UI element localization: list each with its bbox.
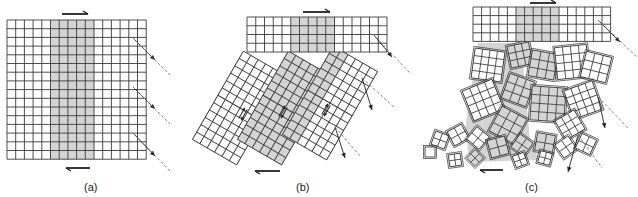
rock-fragment: [424, 146, 437, 159]
rock-fragment: [447, 152, 464, 169]
panel-c-fragmented-blocks: [0, 0, 638, 197]
figure-canvas: (a) (b) (c): [0, 0, 638, 197]
panel-label-b: (b): [296, 181, 309, 193]
panel-label-a: (a): [84, 181, 97, 193]
rock-fragment: [469, 46, 506, 83]
displacement-vector-icon: [598, 97, 628, 128]
shear-arrow-left-icon: [480, 170, 503, 173]
panel-label-c: (c): [525, 181, 538, 193]
shear-arrow-right-icon: [530, 0, 556, 3]
top-block-grid: [473, 7, 611, 41]
